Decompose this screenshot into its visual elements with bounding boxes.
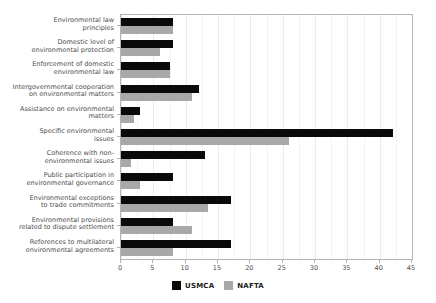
y-axis-tick bbox=[117, 114, 120, 115]
y-axis-category-labels: Environmental lawprinciplesDomestic leve… bbox=[0, 14, 114, 258]
bar-usmca bbox=[121, 62, 170, 70]
chart-legend: USMCANAFTA bbox=[0, 281, 436, 290]
legend-label: USMCA bbox=[185, 282, 214, 290]
x-axis-tick bbox=[185, 260, 186, 263]
x-axis-tick-label: 35 bbox=[342, 264, 350, 272]
bar-nafta bbox=[121, 115, 134, 123]
y-axis-label-line: on environmental matters bbox=[0, 92, 114, 100]
y-axis-label-line: matters bbox=[0, 114, 114, 122]
y-axis-label: Assistance on environmentalmatters bbox=[0, 106, 114, 121]
bar-usmca bbox=[121, 107, 140, 115]
bar-row bbox=[121, 173, 412, 189]
bar-row bbox=[121, 18, 412, 34]
bar-usmca bbox=[121, 151, 205, 159]
bar-nafta bbox=[121, 204, 208, 212]
y-axis-label-line: environmental issues bbox=[0, 158, 114, 166]
y-axis-label-line: to trade commitments bbox=[0, 203, 114, 211]
bar-usmca bbox=[121, 85, 199, 93]
y-axis-tick bbox=[117, 225, 120, 226]
y-axis-label: Intergovernmental cooperationon environm… bbox=[0, 84, 114, 99]
x-axis-tick-label: 30 bbox=[310, 264, 318, 272]
y-axis-label: Domestic level ofenvironmental protectio… bbox=[0, 40, 114, 55]
y-axis-label-line: environmental governance bbox=[0, 180, 114, 188]
y-axis-label: Environmental provisionsrelated to dispu… bbox=[0, 217, 114, 232]
y-axis-tick bbox=[117, 69, 120, 70]
y-axis-tick bbox=[117, 158, 120, 159]
plot-area bbox=[120, 14, 413, 260]
y-axis-label: References to multilateralenvironmental … bbox=[0, 239, 114, 254]
y-axis-tick bbox=[117, 47, 120, 48]
x-axis-tick bbox=[152, 260, 153, 263]
y-axis-label: Public participation inenvironmental gov… bbox=[0, 173, 114, 188]
x-axis-tick bbox=[120, 260, 121, 263]
y-axis-tick bbox=[117, 180, 120, 181]
y-axis-label-line: principles bbox=[0, 25, 114, 33]
y-axis-tick bbox=[117, 203, 120, 204]
bar-nafta bbox=[121, 248, 173, 256]
y-axis-tick bbox=[117, 25, 120, 26]
bar-usmca bbox=[121, 173, 173, 181]
bar-nafta bbox=[121, 48, 160, 56]
bar-usmca bbox=[121, 18, 173, 26]
y-axis-label-line: environmental agreements bbox=[0, 247, 114, 255]
legend-entry: NAFTA bbox=[224, 281, 264, 290]
bar-nafta bbox=[121, 137, 289, 145]
x-axis-tick-label: 40 bbox=[375, 264, 383, 272]
x-axis-tick-label: 15 bbox=[213, 264, 221, 272]
bar-nafta bbox=[121, 70, 170, 78]
y-axis-tick bbox=[117, 92, 120, 93]
x-axis-tick bbox=[314, 260, 315, 263]
bar-nafta bbox=[121, 226, 192, 234]
x-axis-tick bbox=[249, 260, 250, 263]
bar-row bbox=[121, 151, 412, 167]
y-axis-tick bbox=[117, 247, 120, 248]
y-axis-label: Specific environmentalissues bbox=[0, 128, 114, 143]
bar-row bbox=[121, 107, 412, 123]
bar-row bbox=[121, 196, 412, 212]
y-axis-label: Environmental lawprinciples bbox=[0, 17, 114, 32]
x-axis: 051015202530354045 bbox=[120, 260, 413, 278]
y-axis-label-line: related to dispute settlement bbox=[0, 225, 114, 233]
bar-usmca bbox=[121, 40, 173, 48]
legend-label: NAFTA bbox=[237, 282, 264, 290]
legend-swatch bbox=[224, 281, 233, 290]
environmental-provisions-bar-chart: Environmental lawprinciplesDomestic leve… bbox=[0, 0, 436, 303]
x-axis-tick bbox=[282, 260, 283, 263]
bar-usmca bbox=[121, 196, 231, 204]
x-axis-tick-label: 20 bbox=[245, 264, 253, 272]
y-axis-tick bbox=[117, 136, 120, 137]
bar-nafta bbox=[121, 26, 173, 34]
bar-nafta bbox=[121, 159, 131, 167]
bar-row bbox=[121, 40, 412, 56]
bar-row bbox=[121, 62, 412, 78]
y-axis-label-line: environmental law bbox=[0, 69, 114, 77]
bar-rows bbox=[121, 15, 412, 259]
bar-row bbox=[121, 129, 412, 145]
x-axis-tick-label: 0 bbox=[118, 264, 122, 272]
bar-usmca bbox=[121, 240, 231, 248]
x-axis-tick bbox=[346, 260, 347, 263]
x-axis-tick-label: 10 bbox=[181, 264, 189, 272]
gridline-major-45 bbox=[412, 15, 413, 259]
x-axis-tick bbox=[411, 260, 412, 263]
y-axis-label: Environmental exceptionsto trade commitm… bbox=[0, 195, 114, 210]
legend-entry: USMCA bbox=[172, 281, 214, 290]
y-axis-label-line: issues bbox=[0, 136, 114, 144]
bar-nafta bbox=[121, 93, 192, 101]
y-axis-label: Enforcement of domesticenvironmental law bbox=[0, 62, 114, 77]
bar-row bbox=[121, 218, 412, 234]
bar-row bbox=[121, 240, 412, 256]
x-axis-tick bbox=[379, 260, 380, 263]
bar-usmca bbox=[121, 218, 173, 226]
bar-row bbox=[121, 85, 412, 101]
bar-nafta bbox=[121, 181, 140, 189]
x-axis-tick-label: 25 bbox=[278, 264, 286, 272]
x-axis-tick-label: 45 bbox=[407, 264, 415, 272]
legend-swatch bbox=[172, 281, 181, 290]
bar-usmca bbox=[121, 129, 393, 137]
y-axis-label-line: environmental protection bbox=[0, 47, 114, 55]
x-axis-tick bbox=[217, 260, 218, 263]
y-axis-label: Coherence with non-environmental issues bbox=[0, 151, 114, 166]
x-axis-tick-label: 5 bbox=[150, 264, 154, 272]
